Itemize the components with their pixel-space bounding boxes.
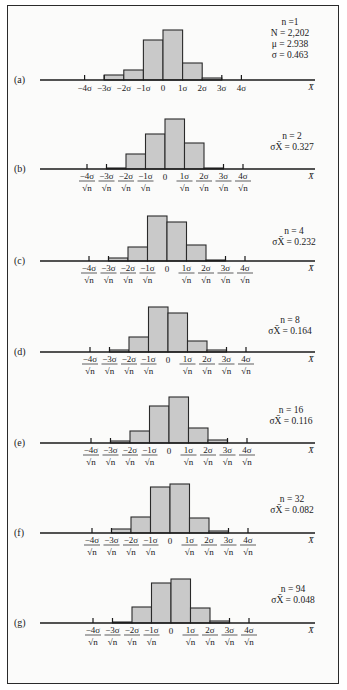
tick-label-numerator: 1σ <box>185 535 195 545</box>
x-bar-label: X̄ <box>307 82 314 92</box>
tick-label-numerator: −2σ <box>119 171 134 181</box>
tick-label-denominator: √n <box>82 183 92 193</box>
tick-label-denominator: √n <box>225 637 235 647</box>
tick-label: 0 <box>161 83 166 93</box>
tick-label-denominator: √n <box>145 457 155 467</box>
stat-line: σ = 0.463 <box>272 50 309 60</box>
histogram-bar <box>189 428 209 443</box>
tick-label-numerator: −4σ <box>80 171 95 181</box>
tick-label-numerator: −4σ <box>85 535 100 545</box>
tick-label-denominator: √n <box>205 637 215 647</box>
tick-label-numerator: 2σ <box>204 535 214 545</box>
tick-label-denominator: √n <box>106 457 116 467</box>
tick-label-numerator: −1σ <box>142 445 157 455</box>
tick-label-numerator: 3σ <box>221 263 231 273</box>
panel-label: (b) <box>14 163 26 175</box>
histogram-bar <box>130 431 150 443</box>
tick-label-denominator: √n <box>241 366 251 376</box>
histogram-bar <box>143 40 163 80</box>
histogram-bar <box>188 341 208 352</box>
stat-line: σX̄ = 0.232 <box>272 236 316 247</box>
tick-label-denominator: √n <box>204 547 214 557</box>
tick-label-numerator: −3σ <box>105 625 120 635</box>
tick-label: 0 <box>167 446 172 456</box>
tick-label: 3σ <box>217 83 227 93</box>
tick-label-numerator: −1σ <box>140 263 155 273</box>
tick-label-denominator: √n <box>183 366 193 376</box>
panel-label: (e) <box>14 437 25 449</box>
histogram-bar <box>169 397 189 443</box>
x-bar-label: X̄ <box>307 625 314 635</box>
x-bar-label: X̄ <box>307 445 314 455</box>
tick-label-denominator: √n <box>219 183 229 193</box>
stat-line: n = 32 <box>280 494 305 504</box>
histogram-bar <box>167 222 187 261</box>
tick-label-numerator: −2σ <box>123 445 138 455</box>
tick-label-denominator: √n <box>144 366 154 376</box>
tick-label-numerator: −2σ <box>124 535 139 545</box>
tick-label-denominator: √n <box>182 275 192 285</box>
tick-label-denominator: √n <box>102 183 112 193</box>
histogram-bar <box>163 30 183 80</box>
tick-label-denominator: √n <box>223 457 233 467</box>
tick-label-numerator: 2σ <box>205 625 215 635</box>
histogram-bar <box>128 247 148 261</box>
x-bar-label: X̄ <box>307 354 314 364</box>
stat-line: n =1 <box>281 17 298 27</box>
tick-label-denominator: √n <box>123 275 133 285</box>
tick-label-denominator: √n <box>222 366 232 376</box>
tick-label-denominator: √n <box>86 457 96 467</box>
tick-label-denominator: √n <box>199 183 209 193</box>
histogram-bar <box>187 245 207 261</box>
stat-line: σX̄ = 0.048 <box>271 594 315 605</box>
panel-label: (c) <box>14 255 25 267</box>
tick-label-denominator: √n <box>184 457 194 467</box>
tick-label: 0 <box>169 626 174 636</box>
tick-label-denominator: √n <box>126 547 136 557</box>
histogram-bar <box>132 607 152 623</box>
stat-line: σX̄ = 0.082 <box>270 504 314 515</box>
tick-label-numerator: −4σ <box>82 263 97 273</box>
histogram-bar <box>150 406 170 443</box>
tick-label-numerator: 3σ <box>223 445 233 455</box>
tick-label-numerator: −3σ <box>102 354 117 364</box>
tick-label-denominator: √n <box>180 183 190 193</box>
tick-label-numerator: −1σ <box>138 171 153 181</box>
tick-label-numerator: 3σ <box>225 625 235 635</box>
stat-line: σX̄ = 0.116 <box>269 415 312 426</box>
tick-label-denominator: √n <box>203 457 213 467</box>
tick-label-numerator: 2σ <box>199 171 209 181</box>
stat-line: N = 2,202 <box>271 28 310 38</box>
tick-label-denominator: √n <box>85 366 95 376</box>
tick-label-denominator: √n <box>224 547 234 557</box>
tick-label: 2σ <box>198 83 208 93</box>
tick-label-denominator: √n <box>147 637 157 647</box>
tick-label: 0 <box>168 536 173 546</box>
stat-line: n = 2 <box>282 131 302 141</box>
tick-label-numerator: −2σ <box>121 263 136 273</box>
tick-label-numerator: 1σ <box>184 445 194 455</box>
tick-label-denominator: √n <box>186 637 196 647</box>
panel-label: (a) <box>14 74 25 86</box>
x-bar-label: X̄ <box>307 171 314 181</box>
tick-label-numerator: 3σ <box>219 171 229 181</box>
histogram-bar <box>131 517 151 533</box>
tick-label-numerator: −3σ <box>101 263 116 273</box>
tick-label-numerator: −2σ <box>125 625 140 635</box>
histogram-bar <box>124 70 144 80</box>
tick-label-denominator: √n <box>238 183 248 193</box>
histogram-bar <box>185 143 205 169</box>
tick-label-denominator: √n <box>88 637 98 647</box>
histogram-bar <box>151 487 171 533</box>
histogram-bar <box>126 154 146 169</box>
tick-label-numerator: 2σ <box>202 354 212 364</box>
panel-label: (d) <box>14 346 26 358</box>
tick-label-numerator: 1σ <box>186 625 196 635</box>
tick-label-denominator: √n <box>146 547 156 557</box>
tick-label-denominator: √n <box>121 183 131 193</box>
tick-label: −4σ <box>77 83 92 93</box>
tick-label-numerator: −1σ <box>144 625 159 635</box>
histogram-bar <box>152 583 172 623</box>
tick-label-numerator: 2σ <box>201 263 211 273</box>
histogram-bar <box>171 579 191 623</box>
